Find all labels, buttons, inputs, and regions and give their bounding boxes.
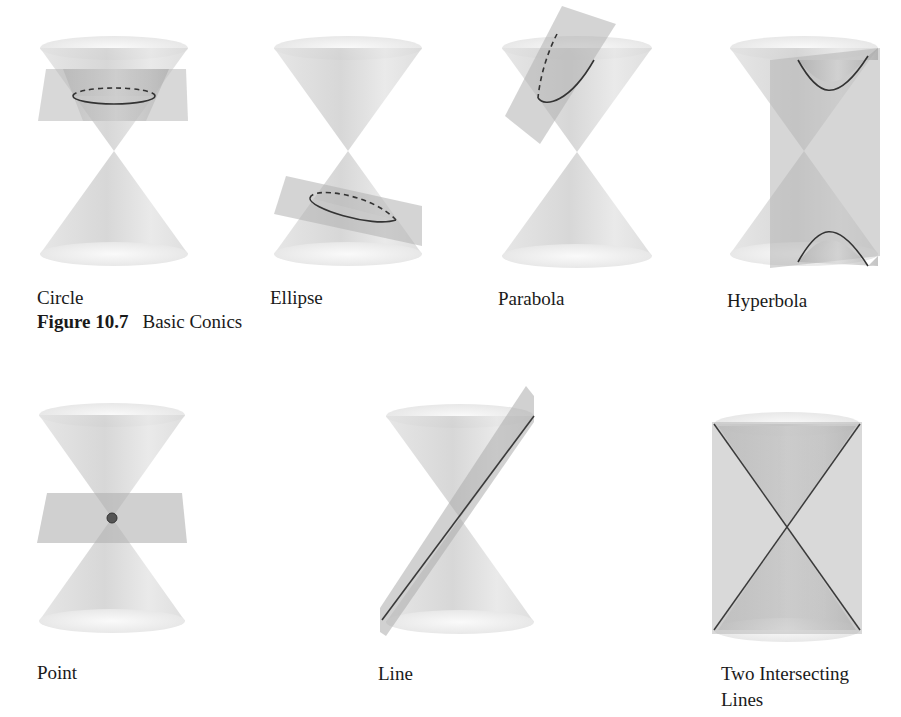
parabola-label: Parabola — [498, 288, 564, 310]
two-lines-label: Two Intersecting Lines — [721, 663, 849, 711]
figure-caption: Figure 10.7Basic Conics — [37, 311, 242, 333]
point-conic-figure — [37, 403, 189, 633]
line-conic-figure — [380, 386, 536, 636]
hyperbola-label: Hyperbola — [727, 290, 807, 312]
ellipse-conic-figure — [272, 36, 424, 266]
ellipse-label: Ellipse — [270, 287, 323, 309]
cutting-plane-icon — [38, 69, 188, 121]
circle-conic-figure — [38, 36, 190, 266]
circle-label: Circle — [37, 287, 83, 309]
two-lines-label-line2: Lines — [721, 689, 849, 711]
hyperbola-conic-figure — [728, 36, 880, 272]
parabola-conic-figure — [500, 6, 660, 268]
figure-number: Figure 10.7 — [37, 311, 128, 332]
line-label: Line — [378, 663, 413, 685]
cutting-plane-icon — [770, 48, 880, 268]
two-lines-label-line1: Two Intersecting — [721, 663, 849, 685]
point-label: Point — [37, 662, 77, 684]
point-dot-icon — [107, 513, 117, 523]
figure-title: Basic Conics — [142, 311, 242, 332]
two-lines-conic-figure — [712, 412, 864, 642]
